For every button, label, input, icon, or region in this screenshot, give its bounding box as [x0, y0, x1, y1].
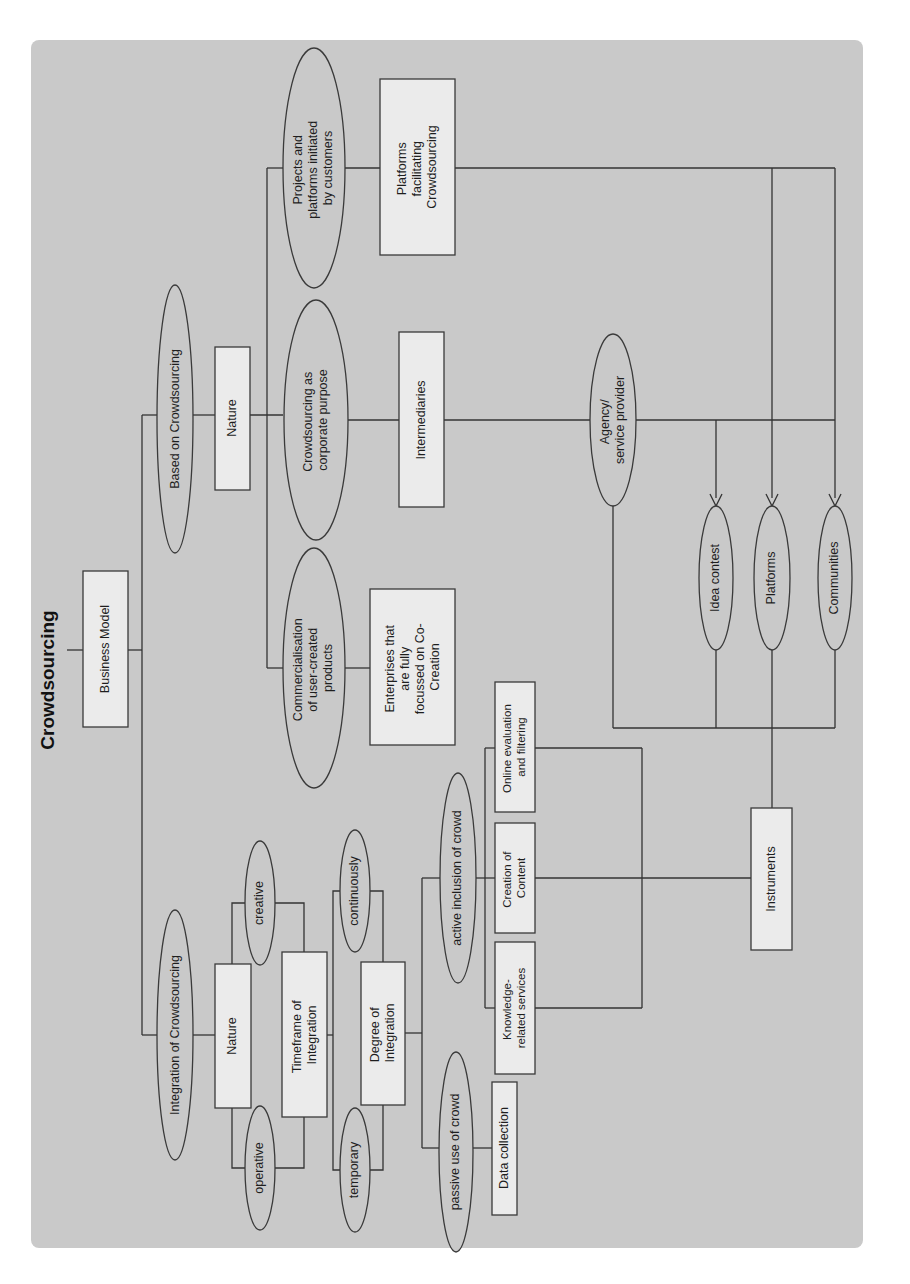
- node-data-collection: Data collection: [492, 1082, 517, 1215]
- node-timeframe-of-integration: Timeframe of Integration: [282, 952, 327, 1117]
- node-crowdsourcing-corporate-purpose: Crowdsourcing as corporate purpose: [284, 300, 348, 540]
- node-label: Integration of Crowdsourcing: [168, 955, 182, 1115]
- svg-text:Projects and platforms i: Projects and platforms initiated by cust…: [291, 117, 335, 218]
- node-label: Nature: [225, 1017, 239, 1055]
- node-projects-initiated-by-customers: Projects and platforms initiated by cust…: [283, 48, 345, 288]
- node-label-line: Timeframe of: [290, 1000, 304, 1074]
- node-label-line: Crowdsourcing as: [301, 372, 315, 472]
- node-operative: operative: [245, 1106, 275, 1230]
- node-label: Nature: [225, 399, 239, 437]
- node-degree-of-integration: Degree of Integration: [361, 962, 405, 1105]
- node-label-line: Integration: [383, 1003, 397, 1062]
- node-label-line: Projects and: [291, 135, 305, 205]
- node-label-line: Creation of: [501, 851, 513, 908]
- node-temporary: temporary: [340, 1108, 370, 1232]
- node-commercialisation-user-created-products: Commercialisation of user-created produc…: [283, 548, 345, 788]
- node-label-line: by customers: [321, 131, 335, 205]
- node-label: Data collection: [497, 1107, 511, 1189]
- node-label-line: platforms initiated: [306, 121, 320, 219]
- node-label-line: Agency/: [598, 399, 612, 445]
- node-label-line: Platforms: [395, 142, 409, 195]
- node-enterprises-co-creation: Enterprises that are fully focussed on C…: [370, 589, 455, 745]
- node-label-line: products: [321, 644, 335, 692]
- node-label: Platforms: [764, 552, 778, 605]
- node-online-evaluation-filtering: Online evaluation and filtering: [495, 682, 535, 812]
- node-based-on-crowdsourcing: Based on Crowdsourcing: [157, 285, 193, 553]
- node-nature-based: Nature: [215, 347, 250, 490]
- node-label-line: are fully: [398, 646, 412, 691]
- node-label-line: and filtering: [515, 717, 527, 776]
- node-label: Idea contest: [708, 543, 722, 612]
- node-label: Based on Crowdsourcing: [168, 349, 182, 489]
- node-label: Business Model: [98, 605, 112, 693]
- svg-text:Timeframe of Integration: Timeframe of Integration: [290, 997, 319, 1074]
- node-label-line: service provider: [613, 376, 627, 464]
- node-label-line: related services: [515, 967, 527, 1048]
- node-label-line: corporate purpose: [316, 369, 330, 471]
- node-label-line: Creation: [428, 643, 442, 690]
- node-idea-contest: Idea contest: [699, 506, 733, 650]
- svg-text:Crowdsourcing as corpora: Crowdsourcing as corporate purpose: [301, 368, 330, 472]
- node-passive-use-of-crowd: passive use of crowd: [439, 1052, 473, 1252]
- crowdsourcing-diagram: Crowdsourcing Business Model Based on Cr…: [0, 0, 910, 1284]
- node-instruments: Instruments: [751, 808, 792, 950]
- node-creative: creative: [245, 841, 275, 965]
- node-label: active inclusion of crowd: [450, 810, 464, 946]
- node-knowledge-related-services: Knowledge- related services: [495, 942, 535, 1074]
- node-continuously: continuously: [340, 830, 370, 952]
- node-label: temporary: [347, 1141, 361, 1198]
- node-active-inclusion-of-crowd: active inclusion of crowd: [440, 773, 476, 983]
- node-label: Communities: [827, 542, 841, 615]
- node-label-line: Enterprises that: [383, 624, 397, 712]
- node-label: passive use of crowd: [448, 1094, 462, 1211]
- node-intermediaries: Intermediaries: [399, 332, 444, 507]
- node-label: continuously: [347, 856, 361, 926]
- node-platforms: Platforms: [754, 506, 790, 650]
- node-integration-of-crowdsourcing: Integration of Crowdsourcing: [157, 910, 193, 1160]
- node-label-line: Crowdsourcing: [425, 125, 439, 208]
- node-agency-service-provider: Agency/ service provider: [590, 334, 636, 506]
- node-label-line: Knowledge-: [501, 979, 513, 1040]
- svg-text:Knowledge- related servi: Knowledge- related services: [501, 967, 527, 1048]
- node-label: Intermediaries: [414, 380, 428, 459]
- node-label-line: of user-created: [306, 628, 320, 712]
- node-label-line: focussed on Co-: [413, 623, 427, 714]
- node-communities: Communities: [818, 506, 852, 650]
- diagram-title: Crowdsourcing: [37, 610, 58, 749]
- svg-text:Degree of Integration: Degree of Integration: [368, 1003, 397, 1062]
- node-label-line: Commercialisation: [291, 618, 305, 721]
- node-label: operative: [252, 1142, 266, 1193]
- node-label-line: facilitating: [410, 141, 424, 197]
- node-creation-of-content: Creation of Content: [495, 823, 535, 933]
- node-label-line: Content: [515, 857, 527, 898]
- node-label: Instruments: [764, 846, 778, 911]
- node-business-model: Business Model: [83, 571, 128, 727]
- node-label-line: Online evaluation: [501, 704, 513, 793]
- node-platforms-facilitating-crowdsourcing: Platforms facilitating Crowdsourcing: [380, 79, 455, 255]
- node-label-line: Integration: [305, 1005, 319, 1064]
- node-label-line: Degree of: [368, 1007, 382, 1062]
- node-label: creative: [252, 881, 266, 925]
- node-nature-integration: Nature: [215, 964, 251, 1108]
